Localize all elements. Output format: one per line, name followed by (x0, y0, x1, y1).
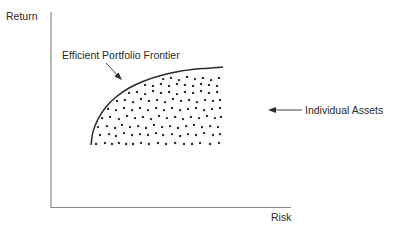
asset-point (118, 118, 120, 120)
asset-point (145, 127, 147, 129)
asset-point (162, 134, 164, 136)
asset-point (124, 99, 126, 101)
asset-point (218, 77, 220, 79)
asset-point (200, 83, 202, 85)
asset-point (95, 143, 97, 145)
asset-point (183, 143, 185, 145)
assets-arrow (268, 107, 302, 113)
asset-point (116, 100, 118, 102)
asset-point (202, 77, 204, 79)
asset-point (168, 85, 170, 87)
asset-point (208, 92, 210, 94)
asset-point (180, 100, 182, 102)
asset-point (128, 92, 130, 94)
asset-point (106, 125, 108, 127)
asset-point (123, 132, 125, 134)
asset-point (131, 109, 133, 111)
asset-point (185, 125, 187, 127)
asset-point (184, 91, 186, 93)
asset-point (179, 135, 181, 137)
asset-point (118, 142, 120, 144)
asset-point (186, 76, 188, 78)
asset-point (148, 100, 150, 102)
asset-point (219, 99, 221, 101)
asset-point (187, 108, 189, 110)
x-axis-label: Risk (271, 212, 291, 223)
asset-point (161, 126, 163, 128)
asset-point (217, 126, 219, 128)
asset-point (176, 93, 178, 95)
asset-point (121, 124, 123, 126)
asset-point (216, 91, 218, 93)
asset-point (178, 79, 180, 81)
asset-point (157, 142, 159, 144)
asset-point (208, 84, 210, 86)
asset-point (210, 79, 212, 81)
asset-point (126, 115, 128, 117)
asset-point (140, 98, 142, 100)
asset-point (170, 77, 172, 79)
asset-point (179, 109, 181, 111)
asset-point (174, 116, 176, 118)
asset-point (192, 85, 194, 87)
asset-point (139, 133, 141, 135)
asset-point (209, 125, 211, 127)
asset-point (220, 116, 222, 118)
asset-point (114, 127, 116, 129)
asset-point (188, 99, 190, 101)
asset-point (195, 134, 197, 136)
asset-point (129, 126, 131, 128)
asset-point (107, 108, 109, 110)
individual-assets-points (95, 76, 222, 145)
asset-point (160, 83, 162, 85)
asset-point (204, 99, 206, 101)
asset-point (218, 142, 220, 144)
asset-point (214, 117, 216, 119)
asset-point (136, 91, 138, 93)
asset-point (191, 143, 193, 145)
asset-point (99, 134, 101, 136)
asset-point (123, 107, 125, 109)
asset-point (101, 117, 103, 119)
y-axis-label: Return (6, 11, 38, 22)
asset-point (111, 143, 113, 145)
asset-point (147, 109, 149, 111)
asset-point (132, 143, 134, 145)
asset-point (152, 85, 154, 87)
asset-point (140, 142, 142, 144)
asset-point (109, 116, 111, 118)
asset-point (219, 107, 221, 109)
asset-point (171, 107, 173, 109)
asset-point (132, 101, 134, 103)
asset-point (174, 142, 176, 144)
asset-point (203, 132, 205, 134)
asset-point (97, 126, 99, 128)
asset-point (155, 132, 157, 134)
assets-annotation: Individual Assets (305, 105, 383, 116)
asset-point (115, 135, 117, 137)
asset-point (171, 133, 173, 135)
asset-point (182, 118, 184, 120)
asset-point (156, 99, 158, 101)
asset-point (193, 124, 195, 126)
arrowhead-icon (268, 107, 276, 113)
asset-point (166, 117, 168, 119)
asset-point (200, 90, 202, 92)
asset-point (194, 78, 196, 80)
asset-point (184, 84, 186, 86)
asset-point (163, 109, 165, 111)
asset-point (153, 124, 155, 126)
asset-point (108, 133, 110, 135)
asset-point (177, 127, 179, 129)
asset-point (134, 117, 136, 119)
asset-point (201, 126, 203, 128)
asset-point (169, 125, 171, 127)
asset-point (155, 107, 157, 109)
asset-point (190, 116, 192, 118)
asset-point (176, 83, 178, 85)
asset-point (216, 85, 218, 87)
asset-point (144, 93, 146, 95)
asset-point (199, 142, 201, 144)
asset-point (168, 91, 170, 93)
asset-point (131, 134, 133, 136)
